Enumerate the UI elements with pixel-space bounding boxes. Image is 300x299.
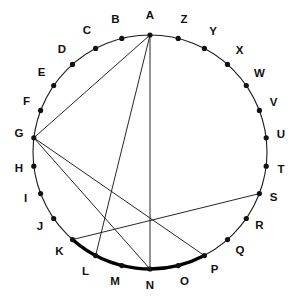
vertex-label-d: D <box>58 43 66 55</box>
vertex-dot-v <box>257 108 262 113</box>
vertex-label-r: R <box>255 219 264 231</box>
vertex-label-l: L <box>82 265 89 277</box>
vertex-dot-g <box>31 135 36 140</box>
vertex-label-q: Q <box>236 244 245 256</box>
chord-G-P <box>34 138 205 256</box>
vertex-dot-r <box>244 216 249 221</box>
chord-K-S <box>73 194 260 240</box>
vertex-label-m: M <box>110 275 120 287</box>
vertex-dot-h <box>31 164 36 169</box>
vertex-label-n: N <box>146 279 154 291</box>
vertex-dot-b <box>119 36 124 41</box>
vertex-dot-o <box>176 263 181 268</box>
vertex-dot-d <box>70 62 75 67</box>
vertex-dot-f <box>38 108 43 113</box>
vertex-dot-e <box>51 83 56 88</box>
vertex-label-y: Y <box>209 25 217 37</box>
vertex-label-i: I <box>24 192 27 204</box>
vertex-dot-l <box>93 253 98 258</box>
vertex-label-x: X <box>236 44 244 56</box>
chord-G-N <box>34 138 150 269</box>
vertex-label-v: V <box>270 96 278 108</box>
vertex-dot-z <box>176 36 181 41</box>
vertex-label-a: A <box>146 9 154 21</box>
vertex-label-e: E <box>38 66 46 78</box>
vertex-label-f: F <box>23 95 30 107</box>
vertex-dot-u <box>264 135 269 140</box>
vertex-label-j: J <box>37 220 43 232</box>
vertex-dot-n <box>147 266 152 271</box>
vertex-dot-k <box>70 237 75 242</box>
vertex-label-s: S <box>270 191 278 203</box>
vertex-label-p: P <box>211 263 219 275</box>
vertex-label-g: G <box>15 127 24 139</box>
vertex-dot-c <box>93 46 98 51</box>
vertex-label-h: H <box>15 162 23 174</box>
vertex-dot-s <box>257 191 262 196</box>
vertex-dot-w <box>244 83 249 88</box>
vertex-label-z: Z <box>180 13 187 25</box>
vertex-dot-a <box>147 32 152 37</box>
vertex-dot-m <box>119 263 124 268</box>
vertex-label-b: B <box>111 13 119 25</box>
vertex-label-o: O <box>180 275 189 287</box>
vertex-dot-x <box>225 62 230 67</box>
circle-diagram-canvas: ABCDEFGHIJKLMNOPQRSTUVWXYZ <box>0 0 300 299</box>
vertex-dot-i <box>38 191 43 196</box>
vertex-label-t: T <box>277 163 284 175</box>
vertex-label-k: K <box>55 245 64 257</box>
vertex-dot-y <box>202 46 207 51</box>
vertex-label-u: U <box>277 128 285 140</box>
vertex-dot-p <box>202 253 207 258</box>
chord-group <box>34 35 260 269</box>
vertex-dot-q <box>225 237 230 242</box>
vertex-dot-j <box>51 216 56 221</box>
vertex-dot-t <box>264 164 269 169</box>
vertex-label-c: C <box>83 24 91 36</box>
highlighted-arc-k-p <box>73 240 205 269</box>
vertex-label-w: W <box>254 67 265 79</box>
geometry-figure: ABCDEFGHIJKLMNOPQRSTUVWXYZ <box>0 0 300 299</box>
